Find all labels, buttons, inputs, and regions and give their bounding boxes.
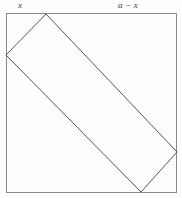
inscribed-rectangle: [6, 14, 177, 192]
label-right-segment-a-minus-x: a − x: [118, 1, 138, 10]
label-left-segment-x: x: [18, 1, 22, 10]
outer-square: [7, 14, 177, 193]
geometry-figure: x a − x: [0, 0, 182, 198]
vertex-left-marker: [6, 55, 7, 56]
vertex-top-marker: [46, 14, 47, 15]
vertex-bottom-marker: [141, 192, 142, 193]
figure-canvas: [0, 0, 182, 198]
vertex-right-marker: [177, 152, 178, 153]
